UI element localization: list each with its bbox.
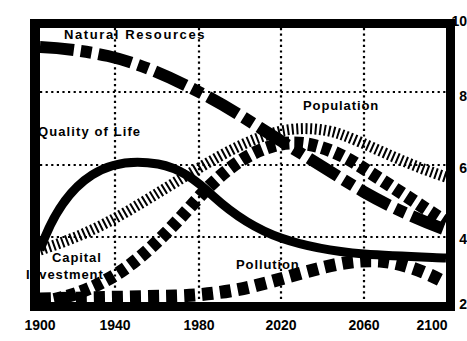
frame-right-edge [446,19,455,311]
x-tick-label: 2100 [397,318,467,332]
series-label-quality-of-life: Quality of Life [38,125,141,138]
series-label-pollution: Pollution [236,258,300,271]
world-model-chart: 10 8 6 4 2 [0,0,467,341]
series-label-natural-resources: Natural Resources [64,28,206,41]
frame-bottom-edge [30,302,455,311]
x-tick-label: 1940 [80,318,150,332]
series-label-capital-investment-line1: Capital [52,251,102,264]
series-label-capital-investment-line2: Investment [26,268,104,281]
series-label-population: Population [303,99,379,112]
x-tick-label: 1980 [164,318,234,332]
x-tick-label: 2020 [246,318,316,332]
x-tick-label: 1900 [5,318,75,332]
x-tick-label: 2060 [329,318,399,332]
